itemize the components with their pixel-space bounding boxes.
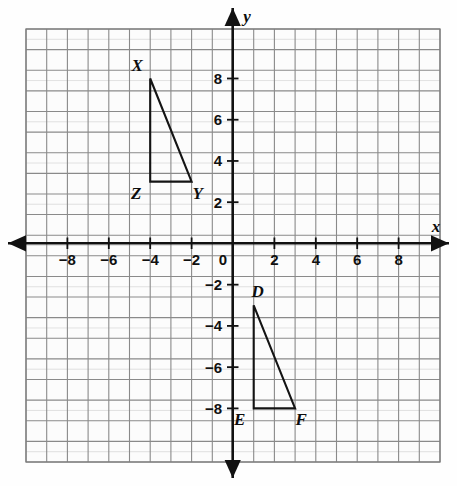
vertex-label-x: X (131, 56, 144, 75)
x-tick-label: −2 (183, 251, 200, 268)
x-tick-label: −4 (142, 251, 160, 268)
vertex-label-y: Y (192, 184, 204, 203)
x-tick-label: 4 (312, 251, 321, 268)
x-tick-label: −8 (59, 251, 76, 268)
y-tick-label: 2 (214, 194, 222, 211)
x-axis-label: x (431, 217, 441, 236)
x-tick-label: 6 (353, 251, 361, 268)
vertex-label-d: D (251, 282, 264, 301)
x-tick-label: 2 (270, 251, 278, 268)
vertex-label-f: F (294, 410, 307, 429)
y-axis-label: y (241, 7, 251, 26)
y-tick-label: −6 (205, 359, 222, 376)
y-tick-label: 8 (214, 70, 222, 87)
y-tick-label: 6 (214, 111, 222, 128)
x-tick-label: 0 (219, 251, 227, 268)
y-tick-label: −2 (205, 276, 222, 293)
plot-canvas: −8−6−4−202468 8642−2−4−6−8 XYZDFE x y (0, 0, 457, 486)
vertex-label-e: E (233, 410, 245, 429)
y-tick-label: −8 (205, 400, 222, 417)
y-tick-label: −4 (205, 317, 223, 334)
x-tick-label: −6 (100, 251, 117, 268)
x-tick-label: 8 (394, 251, 402, 268)
y-tick-label: 4 (214, 152, 223, 169)
coordinate-plane-figure: −8−6−4−202468 8642−2−4−6−8 XYZDFE x y (0, 0, 457, 486)
vertex-label-z: Z (130, 184, 141, 203)
